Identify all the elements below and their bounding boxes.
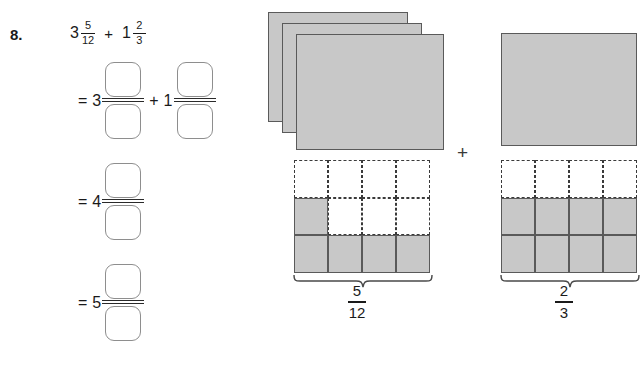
work-row-2-left-whole: 4 <box>92 193 101 211</box>
expression-term2-denominator: 3 <box>135 35 143 47</box>
grid-cell-empty <box>396 198 430 236</box>
grid-cell-shaded <box>569 235 603 273</box>
grid-cell-empty <box>328 198 362 236</box>
expression-term1-numerator: 5 <box>84 20 92 32</box>
expression-operator: + <box>104 25 113 42</box>
whole-unit-rectangle <box>296 34 444 150</box>
right-model-denominator: 3 <box>560 305 568 321</box>
fraction-bar-double <box>102 199 144 204</box>
expression-term1-denominator: 12 <box>81 35 95 47</box>
equals-sign: = <box>78 92 87 110</box>
grid-cell-shaded <box>501 235 535 273</box>
grid-cell-shaded <box>535 198 569 236</box>
grid-cell-empty <box>535 160 569 198</box>
grid-cell-shaded <box>294 235 328 273</box>
work-row-3: = 5 <box>78 264 144 341</box>
grid-cell-empty <box>396 160 430 198</box>
work-row-3-fraction <box>102 264 144 341</box>
work-row-2: = 4 <box>78 163 144 240</box>
grid-cell-empty <box>603 160 637 198</box>
expression-term2-fraction: 2 3 <box>133 20 146 46</box>
whole-unit-rectangle <box>501 33 637 146</box>
answer-box-denominator[interactable] <box>105 306 141 341</box>
grid-cell-shaded <box>535 235 569 273</box>
fraction-bar-double <box>102 98 144 103</box>
grid-cell-shaded <box>603 235 637 273</box>
grid-cell-shaded <box>328 235 362 273</box>
right-model-fraction-grid <box>501 160 637 273</box>
answer-box-denominator[interactable] <box>177 104 213 139</box>
expression-term1-whole: 3 <box>70 25 79 41</box>
grid-cell-shaded <box>362 235 396 273</box>
answer-box-denominator[interactable] <box>105 205 141 240</box>
expression-term2-whole: 1 <box>122 25 131 41</box>
answer-box-numerator[interactable] <box>177 62 213 97</box>
right-model-numerator: 2 <box>560 283 568 299</box>
equals-sign: = <box>78 294 87 312</box>
work-row-2-fraction <box>102 163 144 240</box>
grid-cell-empty <box>294 160 328 198</box>
grid-cell-shaded <box>569 198 603 236</box>
grid-cell-empty <box>569 160 603 198</box>
left-model-fraction-grid <box>294 160 430 273</box>
right-model-fraction-label: 2 3 <box>555 283 573 321</box>
work-row-3-left-whole: 5 <box>92 294 101 312</box>
grid-cell-empty <box>501 160 535 198</box>
left-model-numerator: 5 <box>353 283 361 299</box>
fraction-bar-double <box>174 98 216 103</box>
grid-cell-empty <box>362 160 396 198</box>
fraction-bar <box>555 301 573 302</box>
left-model-denominator: 12 <box>349 305 366 321</box>
grid-cell-shaded <box>294 198 328 236</box>
diagram-plus-operator: + <box>457 142 468 164</box>
equals-sign: = <box>78 193 87 211</box>
work-row-1-left-fraction <box>102 62 144 139</box>
fraction-bar-double <box>102 300 144 305</box>
work-row-1-right-whole: 1 <box>164 92 173 110</box>
fraction-bar <box>348 301 366 302</box>
answer-box-numerator[interactable] <box>105 62 141 97</box>
grid-cell-shaded <box>501 198 535 236</box>
answer-box-numerator[interactable] <box>105 163 141 198</box>
answer-box-numerator[interactable] <box>105 264 141 299</box>
problem-expression: 3 5 12 + 1 2 3 <box>70 20 146 46</box>
problem-number: 8. <box>10 26 23 43</box>
grid-cell-empty <box>362 198 396 236</box>
work-row-1-left-whole: 3 <box>92 92 101 110</box>
left-model-whole-stack <box>268 12 444 150</box>
grid-cell-shaded <box>603 198 637 236</box>
work-row-1: = 3 + 1 <box>78 62 216 139</box>
work-row-1-operator: + <box>149 92 158 110</box>
grid-cell-empty <box>328 160 362 198</box>
answer-box-denominator[interactable] <box>105 104 141 139</box>
left-model-fraction-label: 5 12 <box>348 283 366 321</box>
work-row-1-right-fraction <box>174 62 216 139</box>
expression-term1-fraction: 5 12 <box>81 20 95 46</box>
expression-term2-numerator: 2 <box>135 20 143 32</box>
grid-cell-shaded <box>396 235 430 273</box>
